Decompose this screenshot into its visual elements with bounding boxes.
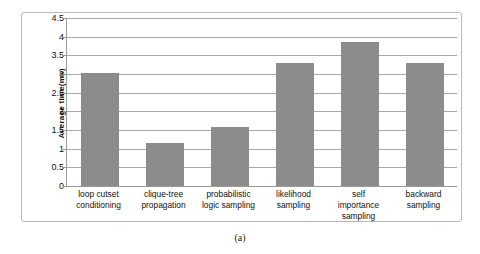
x-category-label-line: conditioning — [67, 200, 130, 211]
y-tick-label: 4.5 — [34, 14, 64, 23]
x-category-label-line: sampling — [327, 211, 390, 222]
x-category-label-line: self — [327, 189, 390, 200]
bar[interactable] — [211, 127, 249, 186]
bar[interactable] — [276, 63, 314, 186]
x-category-label-line: importance — [327, 200, 390, 211]
x-category-label: probabilisticlogic sampling — [196, 189, 261, 222]
bar-slot — [262, 18, 327, 186]
figure-a: Average time(ms) 4.543.532.521.510.50 lo… — [0, 0, 480, 254]
bar[interactable] — [406, 63, 444, 186]
bar-slot — [132, 18, 197, 186]
x-category-label-line: propagation — [132, 200, 195, 211]
x-category-label: likelihoodsampling — [261, 189, 326, 222]
bar-slot — [67, 18, 132, 186]
bar[interactable] — [81, 73, 119, 186]
y-tick-label: 2 — [34, 107, 64, 116]
y-tick-label: 1 — [34, 144, 64, 153]
bar[interactable] — [341, 42, 379, 186]
y-tick-label: 1.5 — [34, 126, 64, 135]
x-category-label-line: backward — [392, 189, 455, 200]
y-tick-label: 3.5 — [34, 51, 64, 60]
x-category-label-line: clique-tree — [132, 189, 195, 200]
bar[interactable] — [146, 143, 184, 186]
x-category-label: backwardsampling — [391, 189, 456, 222]
gridline — [67, 186, 457, 187]
bar-series — [67, 18, 457, 186]
figure-caption: (a) — [0, 232, 480, 243]
plot-area — [66, 18, 457, 187]
x-category-label-line: sampling — [392, 200, 455, 211]
chart-panel: Average time(ms) 4.543.532.521.510.50 lo… — [21, 12, 462, 222]
y-tick-label: 2.5 — [34, 88, 64, 97]
y-tick-label: 4 — [34, 32, 64, 41]
x-category-label-line: probabilistic — [197, 189, 260, 200]
y-axis-tick-labels: 4.543.532.521.510.50 — [34, 18, 64, 186]
y-tick-label: 3 — [34, 70, 64, 79]
x-category-label: selfimportancesampling — [326, 189, 391, 222]
bar-slot — [392, 18, 457, 186]
x-axis-category-labels: loop cutsetconditioningclique-treepropag… — [66, 189, 456, 222]
x-category-label-line: loop cutset — [67, 189, 130, 200]
x-category-label: loop cutsetconditioning — [66, 189, 131, 222]
x-category-label-line: logic sampling — [197, 200, 260, 211]
x-category-label-line: sampling — [262, 200, 325, 211]
bar-slot — [327, 18, 392, 186]
bar-slot — [197, 18, 262, 186]
x-category-label-line: likelihood — [262, 189, 325, 200]
y-tick-label: 0.5 — [34, 163, 64, 172]
x-category-label: clique-treepropagation — [131, 189, 196, 222]
y-tick-label: 0 — [34, 182, 64, 191]
